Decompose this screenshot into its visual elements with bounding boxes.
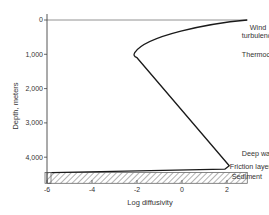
y-tick-label: 2,000: [25, 85, 43, 92]
y-tick-label: 1,000: [25, 51, 43, 58]
annotation-wind-turbulence: turbulence: [242, 31, 269, 40]
y-tick-label: 4,000: [25, 154, 43, 161]
y-axis-title: Depth, meters: [11, 82, 20, 129]
y-tick-label: 3,000: [25, 119, 43, 126]
annotation-friction-layer: Friction layer: [230, 162, 269, 171]
x-tick-label: -2: [134, 186, 140, 193]
x-tick-label: -4: [89, 186, 95, 193]
diffusivity-curve: [52, 20, 248, 173]
annotation-deep-water: Deep water: [242, 149, 269, 158]
x-tick-label: -6: [44, 186, 50, 193]
x-tick-label: 0: [180, 186, 184, 193]
sediment-region: [47, 173, 247, 184]
x-tick-label: 2: [225, 186, 229, 193]
axes: [44, 14, 227, 183]
y-tick-label: 0: [39, 16, 43, 23]
plot-area: [45, 20, 247, 183]
annotation-thermocline: Thermocline: [242, 50, 269, 59]
x-axis-title: Log diffusivity: [127, 198, 173, 207]
diffusivity-depth-chart: Log diffusivity Depth, meters 01,0002,00…: [0, 0, 269, 215]
annotation-sediment: Sediment: [232, 172, 262, 181]
